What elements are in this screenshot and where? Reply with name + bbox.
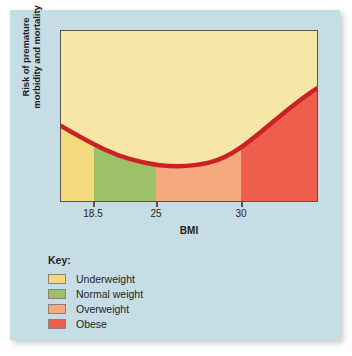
legend-swatch-normal-weight <box>48 289 66 299</box>
legend-swatch-overweight <box>48 304 66 314</box>
legend-label-normal-weight: Normal weight <box>76 288 143 300</box>
y-axis-label-line2: morbidity and mortality <box>31 0 42 132</box>
legend-label-underweight: Underweight <box>76 273 135 285</box>
x-tick-mark-18-5 <box>93 202 95 207</box>
legend-item-underweight: Underweight <box>48 271 143 286</box>
legend-item-obese: Obese <box>48 316 143 331</box>
x-tick-mark-30 <box>241 202 243 207</box>
legend-item-normal-weight: Normal weight <box>48 286 143 301</box>
y-axis-label: Risk of premature morbidity and mortalit… <box>20 0 42 132</box>
y-axis-label-line1: Risk of premature <box>20 0 31 132</box>
legend-label-obese: Obese <box>76 318 107 330</box>
plot-area <box>60 30 318 202</box>
x-tick-label-30: 30 <box>221 208 261 219</box>
chart-legend: Key: Underweight Normal weight Overweigh… <box>48 254 143 331</box>
legend-swatch-obese <box>48 319 66 329</box>
legend-swatch-underweight <box>48 274 66 284</box>
x-tick-label-25: 25 <box>136 208 176 219</box>
legend-item-overweight: Overweight <box>48 301 143 316</box>
figure-card: Risk of premature morbidity and mortalit… <box>10 10 340 340</box>
legend-title: Key: <box>48 254 143 266</box>
risk-curve-line <box>61 31 317 201</box>
x-axis-title: BMI <box>60 225 318 236</box>
x-tick-label-18-5: 18.5 <box>73 208 113 219</box>
legend-label-overweight: Overweight <box>76 303 129 315</box>
x-tick-mark-25 <box>156 202 158 207</box>
